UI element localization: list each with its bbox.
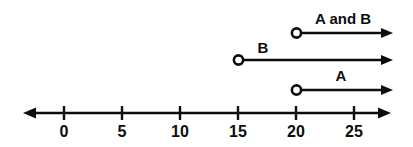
ray-label-a: A bbox=[336, 67, 347, 84]
axis-arrowhead-left bbox=[23, 108, 36, 119]
number-line-figure-root: A and B B A 0 bbox=[0, 0, 413, 147]
ray-group-b: B bbox=[234, 39, 393, 65]
ray-group-a: A bbox=[292, 67, 393, 95]
tick-label-0: 0 bbox=[60, 123, 69, 140]
open-circle-endpoint-a-and-b bbox=[292, 28, 301, 37]
tick-label-20: 20 bbox=[287, 123, 305, 140]
ray-arrowhead-a-and-b bbox=[381, 28, 393, 38]
ray-group-a-and-b: A and B bbox=[292, 10, 393, 38]
ray-label-a-and-b: A and B bbox=[315, 10, 371, 27]
tick-label-10: 10 bbox=[171, 123, 189, 140]
open-circle-endpoint-a bbox=[292, 85, 301, 94]
ray-arrowhead-a bbox=[381, 85, 393, 95]
number-line-diagram: A and B B A 0 bbox=[0, 0, 413, 147]
open-circle-endpoint-b bbox=[234, 55, 243, 64]
tick-label-5: 5 bbox=[118, 123, 127, 140]
number-line-axis: 0 5 10 15 20 25 bbox=[23, 106, 391, 140]
ray-arrowhead-b bbox=[381, 55, 393, 65]
axis-arrowhead-right bbox=[378, 108, 391, 119]
tick-label-15: 15 bbox=[229, 123, 247, 140]
ray-label-b: B bbox=[258, 39, 269, 56]
tick-label-25: 25 bbox=[345, 123, 363, 140]
